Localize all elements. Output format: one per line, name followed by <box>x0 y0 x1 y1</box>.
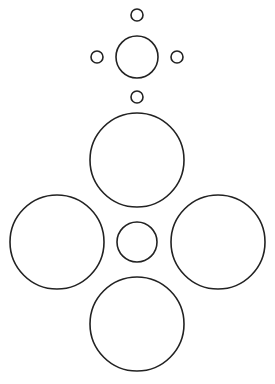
top-satellite-north <box>131 9 143 21</box>
top-center-circle <box>116 36 158 78</box>
bottom-satellite-east <box>171 195 265 289</box>
top-cluster <box>91 9 183 103</box>
diagram-canvas <box>0 0 275 384</box>
bottom-satellite-north <box>90 113 184 207</box>
bottom-satellite-south <box>90 277 184 371</box>
bottom-cluster <box>10 113 265 371</box>
bottom-center-circle <box>117 222 157 262</box>
top-satellite-east <box>171 51 183 63</box>
top-satellite-west <box>91 51 103 63</box>
circle-arrangement-diagram <box>0 0 275 384</box>
top-satellite-south <box>131 91 143 103</box>
bottom-satellite-west <box>10 195 104 289</box>
